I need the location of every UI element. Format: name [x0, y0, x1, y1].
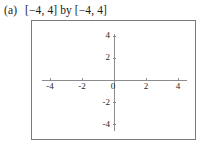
- origin-label: 0: [108, 82, 118, 91]
- y-tick-label-minus4: -4: [96, 120, 110, 129]
- y-tick-4: [113, 36, 116, 37]
- caption-label: (a): [4, 4, 17, 16]
- y-tick-2: [113, 58, 116, 59]
- x-tick-label-2: 2: [139, 82, 153, 91]
- y-tick-label-2: 2: [96, 53, 110, 62]
- x-tick-label-4: 4: [171, 82, 185, 91]
- x-tick-label-minus4: -4: [43, 82, 57, 91]
- figure-panel: (a) [−4, 4] by [−4, 4] -4 -2 2 4 0 4 2 -…: [0, 0, 204, 153]
- x-tick-label-minus2: -2: [75, 82, 89, 91]
- plot-frame: -4 -2 2 4 0 4 2 -2 -4: [31, 20, 196, 140]
- y-tick-label-4: 4: [96, 31, 110, 40]
- y-tick-minus2: [113, 102, 116, 103]
- y-tick-label-minus2: -2: [96, 98, 110, 107]
- caption-range: [−4, 4] by [−4, 4]: [25, 4, 107, 16]
- figure-caption: (a) [−4, 4] by [−4, 4]: [4, 2, 107, 18]
- y-tick-minus4: [113, 124, 116, 125]
